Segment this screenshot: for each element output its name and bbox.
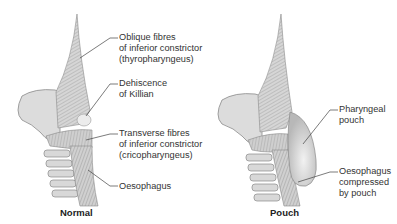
label-line: of inferior constrictor	[119, 43, 202, 54]
caption-pouch: Pouch	[270, 207, 299, 218]
label-line: of Killian	[119, 89, 167, 100]
label-line: of inferior constrictor	[119, 139, 202, 150]
label-oblique-fibres: Oblique fibres of inferior constrictor (…	[119, 32, 202, 65]
label-line: Oblique fibres	[119, 32, 202, 43]
label-oesophagus: Oesophagus	[119, 181, 171, 192]
label-line: compressed	[339, 177, 391, 188]
label-line: Pharyngeal	[339, 104, 385, 115]
label-line: by pouch	[339, 188, 391, 199]
normal-anatomy	[18, 14, 118, 206]
label-dehiscence-of-killian: Dehiscence of Killian	[119, 78, 167, 100]
label-pharyngeal-pouch: Pharyngeal pouch	[339, 104, 385, 126]
label-line: Oesophagus	[339, 166, 391, 177]
label-oesophagus-compressed: Oesophagus compressed by pouch	[339, 166, 391, 199]
label-line: Oesophagus	[119, 181, 171, 192]
label-line: Transverse fibres	[119, 128, 202, 139]
label-transverse-fibres: Transverse fibres of inferior constricto…	[119, 128, 202, 161]
pouch-anatomy	[218, 14, 338, 206]
pharyngeal-pouch-diagram: Oblique fibres of inferior constrictor (…	[0, 0, 397, 224]
label-line: Dehiscence	[119, 78, 167, 89]
label-line: (thyropharyngeus)	[119, 54, 202, 65]
label-line: (cricopharyngeus)	[119, 150, 202, 161]
label-line: pouch	[339, 115, 385, 126]
caption-normal: Normal	[60, 207, 93, 218]
